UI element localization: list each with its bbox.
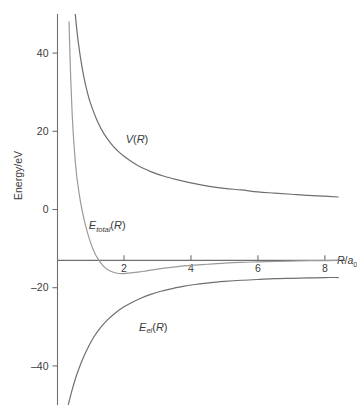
y-axis-tick-labels: 40200–20–40 [31,47,49,372]
y-tick-label-0: 40 [37,47,49,59]
curve-etotalr [69,22,338,274]
y-tick-label-1: 20 [37,125,49,137]
curve-vr [72,0,338,197]
x-axis-ticks [124,255,325,260]
y-tick-label-4: –40 [31,360,49,372]
y-axis-ticks [53,53,58,366]
x-tick-label-1: 4 [188,262,194,274]
x-axis-title: R/a0 [337,254,357,269]
x-tick-label-0: 2 [121,262,127,274]
curve-eelr [66,278,338,413]
curve-label-1: Etotal(R) [89,219,126,234]
data-curves [66,0,338,413]
curve-label-0: V(R) [126,133,149,145]
x-axis-tick-labels: 2468 [121,262,328,274]
x-tick-label-3: 8 [322,262,328,274]
y-axis-title: Energy/eV [12,151,24,200]
figure-container: 40200–20–40 Energy/eV 2468 R/a0 V(R)Etot… [0,0,357,415]
x-tick-label-2: 6 [255,262,261,274]
curve-label-2: Eel(R) [139,321,167,336]
energy-curves-plot: 40200–20–40 Energy/eV 2468 R/a0 V(R)Etot… [0,0,357,415]
y-tick-label-3: –20 [31,281,49,293]
y-tick-label-2: 0 [43,203,49,215]
y-axis-group: 40200–20–40 Energy/eV [12,14,58,405]
